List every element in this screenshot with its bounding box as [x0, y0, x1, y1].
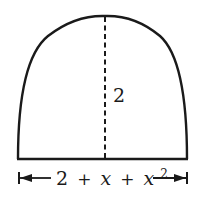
arrowhead-left-icon: [20, 174, 32, 182]
base-length-label: 2 + x + x 2: [56, 167, 168, 189]
base-label-constant: 2: [56, 167, 68, 189]
base-label-plus-2: +: [120, 169, 134, 189]
base-label-x: x: [100, 167, 111, 189]
parabolic-region-diagram: 2 2 + x + x 2: [0, 0, 207, 208]
parabola-arch: [18, 16, 187, 159]
base-label-x-squared-base: x: [144, 167, 155, 189]
height-label: 2: [113, 84, 125, 106]
arrowhead-right-icon: [174, 174, 186, 182]
base-label-exponent: 2: [160, 167, 168, 181]
base-label-plus-1: +: [77, 169, 91, 189]
